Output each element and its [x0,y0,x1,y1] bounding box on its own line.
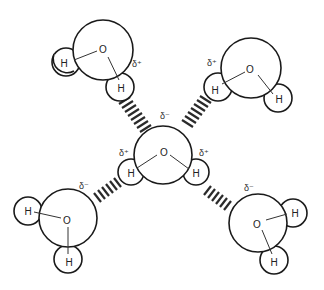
oxygen-label: O [63,215,71,226]
hydrogen-bond-top-left [119,97,151,132]
partial-charge-label: δ⁻ [79,181,89,191]
hydrogen-label: H [60,58,67,69]
hydrogen-label: H [275,94,282,105]
hydrogen-label: H [192,168,199,179]
oxygen-label: O [99,44,107,55]
partial-charge-label: δ⁺ [119,148,129,158]
water-molecule-top-right: O H H δ⁺ [204,38,292,112]
hydrogen-bond-bottom-right [204,186,231,210]
hydrogen-bond-bottom-left [94,178,121,202]
water-hydrogen-bonding-diagram: O H H δ⁺ O H H δ⁺ O H H δ⁻ δ⁺ δ⁺ O [0,0,324,290]
hydrogen-label: H [211,85,218,96]
oxygen-label: O [160,147,168,158]
partial-charge-label: δ⁻ [244,183,254,193]
hydrogen-bond-top-right [182,96,211,127]
oxygen-label: O [253,219,261,230]
hydrogen-label: H [127,168,134,179]
partial-charge-label: δ⁺ [199,148,209,158]
partial-charge-label: δ⁺ [207,58,217,68]
hydrogen-label: H [291,208,298,219]
hydrogen-label: H [270,257,277,268]
partial-charge-label: δ⁻ [160,111,170,121]
water-molecule-bottom-left: O H H δ⁻ [14,181,97,273]
hydrogen-label: H [65,257,72,268]
hydrogen-label: H [117,83,124,94]
hydrogen-label: H [24,206,31,217]
partial-charge-label: δ⁺ [132,59,142,69]
oxygen-label: O [246,64,254,75]
water-molecule-top-left: O H H δ⁺ [52,20,142,101]
water-molecule-bottom-right: O H H δ⁻ [229,183,307,274]
